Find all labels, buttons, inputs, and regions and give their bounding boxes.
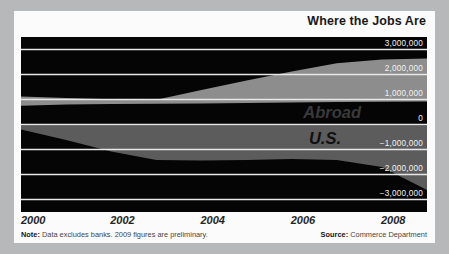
footnote-text: Data excludes banks. 2009 figures are pr… — [40, 230, 208, 239]
footnote-prefix: Note: — [21, 230, 40, 239]
footnote: Note: Data excludes banks. 2009 figures … — [21, 230, 208, 239]
area-chart-svg — [21, 37, 427, 212]
x-axis-tick-label: 2006 — [291, 214, 315, 226]
x-axis-tick-label: 2008 — [381, 214, 405, 226]
chart-footer: Note: Data excludes banks. 2009 figures … — [21, 230, 427, 242]
chart-card: Where the Jobs Are 3,000,0002,000,0001,0… — [14, 11, 435, 243]
x-axis-tick-label: 2000 — [21, 214, 45, 226]
chart-plot-area — [21, 37, 427, 212]
source-note: Source: Commerce Department — [321, 230, 427, 239]
page-title: Where the Jobs Are — [307, 14, 426, 28]
source-text: Commerce Department — [348, 230, 427, 239]
source-prefix: Source: — [321, 230, 349, 239]
x-axis-labels: 20002002200420062008 — [21, 214, 427, 229]
x-axis-tick-label: 2004 — [200, 214, 224, 226]
x-axis-tick-label: 2002 — [110, 214, 134, 226]
